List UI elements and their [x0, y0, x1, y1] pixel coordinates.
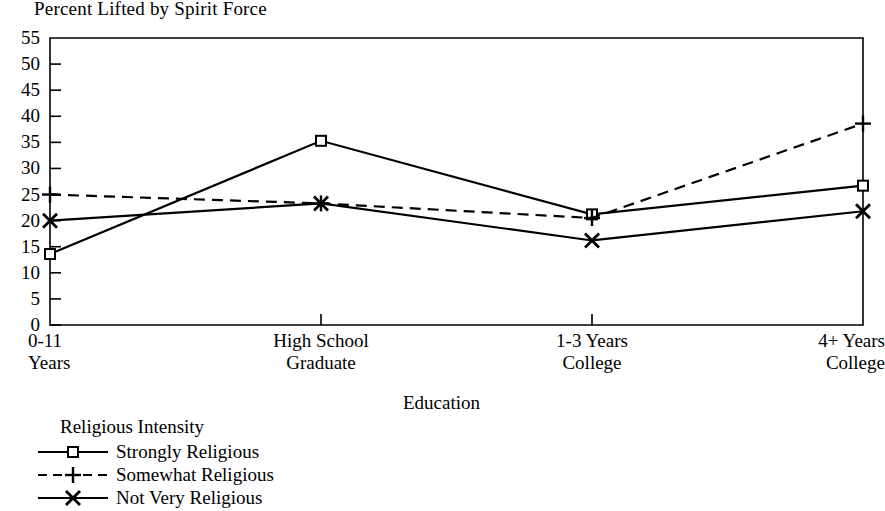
series-2 [42, 116, 871, 226]
data-point-square-marker [68, 447, 78, 457]
y-tick-label: 10 [0, 263, 40, 282]
data-point-square-marker [316, 136, 326, 146]
legend-marker-plus-icon [36, 464, 110, 486]
y-tick-label: 40 [0, 106, 40, 125]
y-tick-label: 55 [0, 28, 40, 47]
series-line [50, 141, 863, 254]
x-axis-ticks [321, 314, 592, 325]
series-line [50, 203, 863, 240]
x-tick-label-line: College [502, 352, 682, 374]
y-tick-label: 20 [0, 211, 40, 230]
legend-item-1[interactable]: Strongly Religious [36, 440, 274, 463]
x-axis-title: Education [0, 392, 883, 414]
legend-title: Religious Intensity [60, 416, 274, 438]
x-tick-label: High SchoolGraduate [231, 330, 411, 374]
legend-item-3[interactable]: Not Very Religious [36, 486, 274, 509]
y-tick-label: 45 [0, 80, 40, 99]
legend-item-label: Somewhat Religious [116, 464, 274, 486]
y-tick-label: 5 [0, 289, 40, 308]
x-tick-label-line: 4+ Years [705, 330, 885, 352]
data-point-plus-marker [65, 467, 81, 483]
legend-item-label: Strongly Religious [116, 441, 259, 463]
data-point-square-marker [858, 181, 868, 191]
y-tick-label: 30 [0, 158, 40, 177]
x-tick-label-line: 0-11 [28, 330, 208, 352]
x-tick-label-line: High School [231, 330, 411, 352]
y-tick-label: 15 [0, 237, 40, 256]
x-tick-label-line: Graduate [231, 352, 411, 374]
data-point-plus-marker [855, 116, 871, 132]
chart-legend: Religious Intensity Strongly ReligiousSo… [36, 416, 274, 509]
axes-frame [50, 38, 863, 325]
data-point-square-marker [45, 249, 55, 259]
x-tick-label: 4+ YearsCollege [705, 330, 885, 374]
x-tick-label-line: 1-3 Years [502, 330, 682, 352]
y-tick-label: 35 [0, 132, 40, 151]
x-tick-label-line: Years [28, 352, 208, 374]
x-tick-label: 0-11Years [28, 330, 208, 374]
legend-marker-square-icon [36, 441, 110, 463]
legend-item-2[interactable]: Somewhat Religious [36, 463, 274, 486]
legend-marker-x-icon [36, 487, 110, 509]
plot-frame [50, 38, 863, 325]
x-tick-label-line: College [705, 352, 885, 374]
data-point-plus-marker [42, 187, 58, 203]
legend-item-label: Not Very Religious [116, 487, 262, 509]
y-tick-label: 50 [0, 54, 40, 73]
data-series-layer [42, 116, 871, 259]
y-tick-label: 25 [0, 185, 40, 204]
x-tick-label: 1-3 YearsCollege [502, 330, 682, 374]
